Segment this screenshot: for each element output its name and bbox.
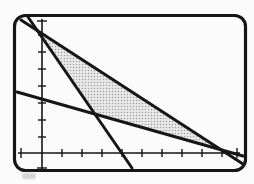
artifact-layer	[22, 173, 36, 179]
print-smudge	[22, 173, 36, 179]
scanned-figure	[0, 0, 254, 184]
medium-line	[21, 20, 243, 164]
graph-svg	[0, 0, 254, 184]
